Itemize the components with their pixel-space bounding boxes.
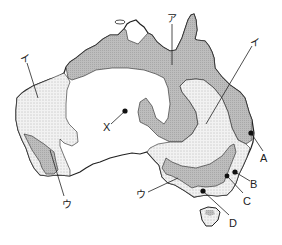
point-x-marker bbox=[122, 108, 127, 113]
point-b-marker bbox=[232, 169, 237, 174]
label-point-x: X bbox=[103, 121, 111, 133]
island-north bbox=[115, 20, 125, 24]
point-a-marker bbox=[248, 130, 253, 135]
label-point-a: A bbox=[260, 152, 268, 164]
label-point-d: D bbox=[229, 217, 237, 229]
label-region-i-east: イ bbox=[250, 37, 260, 48]
tasmania bbox=[200, 207, 220, 226]
label-region-u-west: ウ bbox=[62, 199, 72, 210]
australia-map: ア イ イ ウ ウ X A B C D bbox=[0, 0, 282, 245]
label-region-u-south: ウ bbox=[136, 189, 146, 200]
label-point-b: B bbox=[250, 178, 257, 190]
point-c-marker bbox=[225, 174, 230, 179]
label-region-a: ア bbox=[167, 13, 177, 24]
label-region-i-west: イ bbox=[20, 53, 30, 64]
label-point-c: C bbox=[243, 195, 251, 207]
point-d-marker bbox=[200, 188, 205, 193]
